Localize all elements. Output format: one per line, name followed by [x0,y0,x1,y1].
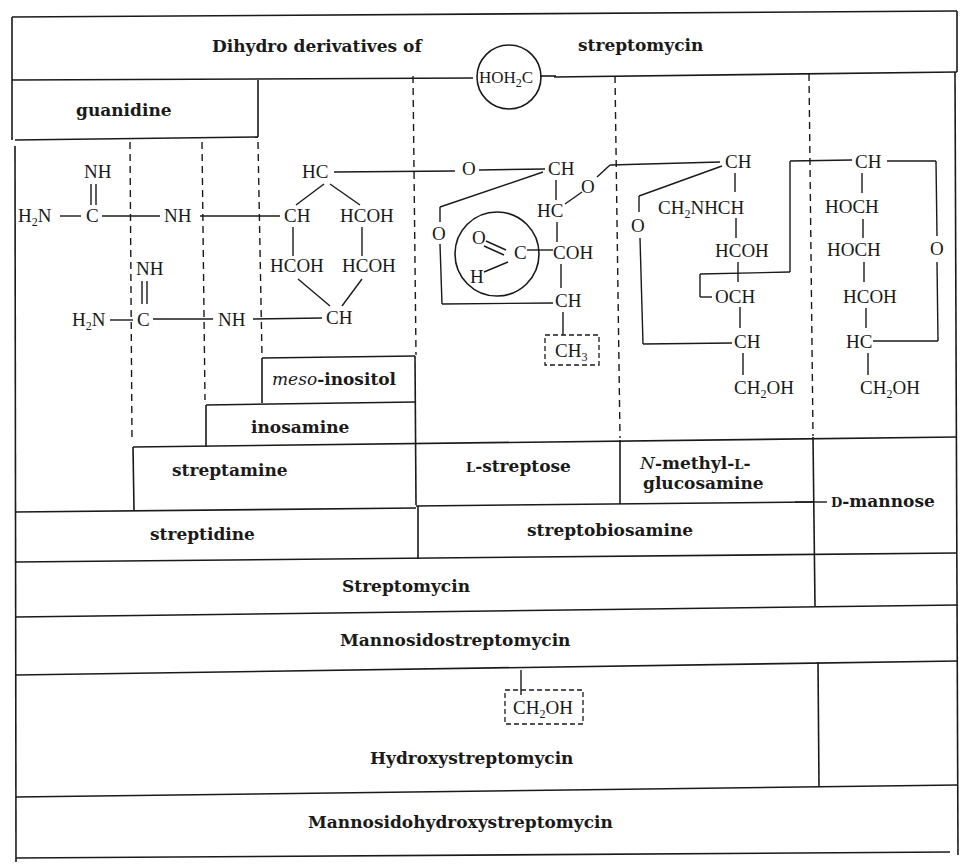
fragment-streptobiosamine: streptobiosamine [527,520,693,540]
svg-text:HCOH: HCOH [270,255,324,276]
svg-text:C: C [86,205,99,226]
svg-text:H: H [470,266,484,287]
fragment-inosamine: inosamine [251,417,350,437]
mannose-structure: CH O HOCH HOCH HCOH HC CH2OH [825,151,944,401]
svg-text:HOCH: HOCH [827,239,881,260]
glucosamine-structure: CH O CH2NHCH HCOH OCH CH CH2OH [631,151,852,401]
svg-text:O: O [930,238,944,259]
svg-text:O: O [432,223,446,244]
inositol-ring: HC CH HCOH HCOH HCOH CH [270,161,455,328]
fragment-boxes [15,356,958,858]
fragment-n-methyl-l-glucosamine-line1: N-methyl-L- [639,453,751,473]
svg-text:H2N: H2N [18,205,52,229]
svg-text:HC: HC [302,161,328,182]
svg-text:COH: COH [553,242,593,263]
fragment-streptidine: streptidine [150,524,255,544]
svg-text:C: C [514,242,527,263]
svg-text:CH2OH: CH2OH [513,697,573,721]
svg-text:NH: NH [164,205,192,226]
svg-text:CH: CH [725,151,752,172]
svg-text:CH: CH [326,307,353,328]
compound-hydroxystreptomycin: Hydroxystreptomycin [370,748,573,768]
compound-mannosidostreptomycin: Mannosidostreptomycin [340,630,570,650]
svg-text:H2N: H2N [72,309,106,333]
fragment-guanidine: guanidine [76,100,172,120]
svg-text:NH: NH [84,161,112,182]
svg-text:NH: NH [218,309,246,330]
svg-text:O: O [631,215,645,236]
svg-text:O: O [462,158,476,179]
svg-text:HCOH: HCOH [843,286,897,307]
svg-text:O: O [581,176,595,197]
svg-text:HC: HC [846,331,872,352]
svg-text:CH: CH [548,158,575,179]
svg-text:CH: CH [855,151,882,172]
table-frame [12,11,958,862]
svg-text:CH: CH [555,290,582,311]
svg-text:OCH: OCH [715,286,755,307]
title-left: Dihydro derivatives of [212,36,423,56]
fragment-streptamine: streptamine [172,460,288,480]
svg-text:NH: NH [136,258,164,279]
svg-text:HOCH: HOCH [825,196,879,217]
streptose-structure: O CH O HC O O C COH H CH CH3 [432,158,720,365]
svg-text:CH: CH [734,331,761,352]
svg-text:HOH2C: HOH2C [479,68,533,90]
hydroxy-ch2oh-group: CH2OH [505,670,583,724]
svg-text:CH2OH: CH2OH [860,377,920,401]
svg-text:CH: CH [284,205,311,226]
fragment-d-mannose: D-mannose [831,491,935,511]
fragment-n-methyl-l-glucosamine-line2: glucosamine [643,473,764,493]
svg-text:O: O [472,227,486,248]
compound-streptomycin: Streptomycin [342,576,470,596]
svg-text:CH2OH: CH2OH [734,377,794,401]
fragment-meso-inositol: meso-inositol [272,369,397,389]
svg-text:CH2NHCH: CH2NHCH [658,197,745,221]
svg-text:HC: HC [537,200,563,221]
svg-text:HCOH: HCOH [340,205,394,226]
title-right: streptomycin [578,35,703,55]
compound-mannosidohydroxystreptomycin: Mannosidohydroxystreptomycin [308,812,613,832]
circled-hoh2c-group: HOH2C [477,45,556,109]
svg-text:CH3: CH3 [555,340,587,364]
svg-text:C: C [137,309,150,330]
fragment-l-streptose: L-streptose [466,456,571,476]
svg-text:HCOH: HCOH [342,255,396,276]
dashed-dividers [130,74,813,440]
streptomycin-structure-diagram: Dihydro derivatives of streptomycin HOH2… [0,0,971,864]
svg-text:HCOH: HCOH [715,240,769,261]
guanidine-group-1: NH H2N C NH [18,161,280,229]
